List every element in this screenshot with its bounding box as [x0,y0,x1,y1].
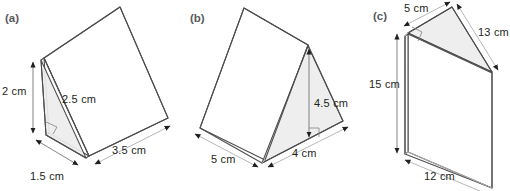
prism-b-label-height: 4.5 cm [314,97,348,109]
prism-c-label-long-leg: 12 cm [424,170,455,182]
prism-c-label-length: 15 cm [369,78,400,90]
prism-a-label-base: 1.5 cm [30,170,64,182]
panel-a: 2 cm 2.5 cm 1.5 cm 3.5 cm (a) [2,7,170,182]
figure-canvas: 2 cm 2.5 cm 1.5 cm 3.5 cm (a) 4.5 [0,0,510,191]
prism-a-label-length: 3.5 cm [112,144,146,156]
panel-a-tag: (a) [5,12,19,24]
panel-c-tag: (c) [373,10,387,22]
prisms-diagram: 2 cm 2.5 cm 1.5 cm 3.5 cm (a) 4.5 [0,0,510,191]
panel-b-tag: (b) [190,12,205,24]
prism-b-label-base: 4 cm [292,147,317,159]
prism-a-label-height: 2 cm [2,85,27,97]
prism-c-label-short-leg: 5 cm [404,2,429,14]
prism-c-label-hypotenuse: 13 cm [478,26,509,38]
prism-a-label-hypotenuse: 2.5 cm [62,93,96,105]
panel-b: 4.5 cm 5 cm 4 cm (b) [190,8,348,167]
panel-c: 5 cm 13 cm 15 cm 12 cm (c) [369,2,509,191]
prism-b-label-length: 5 cm [211,153,236,165]
